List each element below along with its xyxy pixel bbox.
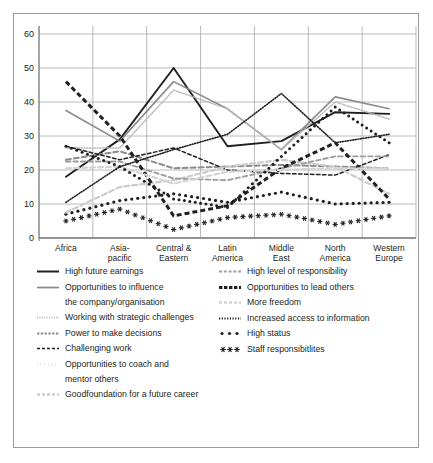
data-point-marker: [255, 178, 258, 181]
legend-item-label: Goodfoundation for a future career: [65, 389, 198, 401]
x-axis-category-label: Latin: [218, 243, 237, 253]
data-point-marker: [208, 198, 211, 201]
star-marker: [202, 220, 207, 225]
data-point-marker: [304, 196, 307, 199]
series-working-with-strategic-challenges: [66, 90, 389, 150]
data-point-marker: [301, 136, 304, 139]
data-point-marker: [172, 197, 175, 200]
data-point-marker: [202, 197, 205, 200]
data-point-marker: [338, 109, 341, 112]
data-point-marker: [142, 196, 145, 199]
star-marker: [171, 227, 176, 232]
star-marker: [240, 214, 245, 219]
star-marker: [163, 224, 168, 229]
legend-line-sample: [219, 282, 241, 293]
data-point-marker: [75, 149, 78, 152]
data-point-marker: [190, 195, 193, 198]
chart-plot-area: 0102030405060AfricaAsia-pacificCentral &…: [14, 14, 420, 264]
star-marker: [271, 212, 276, 217]
data-point-marker: [250, 196, 253, 199]
legend-item[interactable]: Working with strategic challenges: [37, 312, 219, 324]
legend-item[interactable]: Goodfoundation for a future career: [37, 389, 219, 401]
data-point-marker: [267, 167, 270, 170]
data-point-marker: [292, 144, 295, 147]
legend-line-sample: [37, 328, 59, 339]
data-point-marker: [288, 147, 291, 150]
legend-item[interactable]: More freedom: [219, 297, 419, 309]
data-point-marker: [148, 183, 151, 186]
data-point-marker: [221, 205, 224, 208]
y-axis-tick-label: 30: [24, 131, 34, 141]
series-staff-responsibitlites: [63, 207, 391, 232]
data-point-marker: [280, 191, 283, 194]
y-axis-tick-label: 60: [24, 29, 34, 39]
legend-item-label: Opportunities to lead others: [247, 282, 354, 294]
data-point-marker: [346, 202, 349, 205]
legend-item[interactable]: Increased access to information: [219, 313, 419, 325]
data-point-marker: [280, 155, 283, 158]
series-line: [66, 82, 389, 150]
star-marker: [248, 214, 253, 219]
y-axis-tick-label: 10: [24, 199, 34, 209]
legend-swatch-solid-grey-icon: [37, 282, 59, 293]
series-opportunities-to-influence-the-company-organisation: [66, 82, 389, 150]
legend-item[interactable]: Opportunities to influence: [37, 282, 219, 294]
y-axis-tick-label: 40: [24, 97, 34, 107]
x-axis-category-label: Middle: [269, 243, 294, 253]
data-point-marker: [94, 205, 97, 208]
data-point-marker: [88, 207, 91, 210]
x-axis-category-label: pacific: [108, 253, 133, 263]
data-point-marker: [100, 204, 103, 207]
data-point-marker: [305, 132, 308, 135]
data-point-marker: [210, 203, 213, 206]
data-point-marker: [86, 153, 89, 156]
star-marker: [302, 216, 307, 221]
legend-swatch-dash-mid-icon: [219, 266, 241, 277]
star-marker: [186, 224, 191, 229]
legend-item-label-continued: mentor others: [65, 374, 219, 386]
data-point-marker: [220, 200, 223, 203]
legend-line-sample: [219, 297, 241, 308]
data-point-marker: [178, 193, 181, 196]
data-point-marker: [178, 198, 181, 201]
legend-item[interactable]: Challenging work: [37, 343, 219, 355]
x-axis-category-label: East: [273, 253, 291, 263]
star-marker: [317, 219, 322, 224]
legend-item-label: Working with strategic challenges: [65, 312, 194, 324]
legend-item[interactable]: Opportunities to coach and: [37, 359, 219, 371]
legend-item-label-continued: the company/organisation: [65, 297, 219, 309]
star-marker: [117, 207, 122, 212]
x-axis-category-label: Europe: [375, 253, 403, 263]
data-point-marker: [296, 140, 299, 143]
legend-line-sample: [37, 389, 59, 400]
data-point-marker: [226, 206, 229, 209]
star-marker: [210, 219, 215, 224]
data-point-marker: [106, 202, 109, 205]
legend-item[interactable]: Opportunities to lead others: [219, 282, 419, 294]
data-point-marker: [97, 157, 100, 160]
data-point-marker: [262, 194, 265, 197]
data-point-marker: [334, 106, 337, 109]
data-point-marker: [112, 201, 115, 204]
data-point-marker: [70, 211, 73, 214]
chart-legend: High future earningsOpportunities to inf…: [14, 266, 420, 448]
data-point-marker: [136, 197, 139, 200]
data-point-marker: [130, 197, 133, 200]
data-point-marker: [358, 202, 361, 205]
legend-item[interactable]: High future earnings: [37, 266, 219, 278]
legend-item[interactable]: High status: [219, 328, 419, 340]
legend-item[interactable]: Staff responsibitlites: [219, 344, 419, 356]
data-point-marker: [148, 195, 151, 198]
data-point-marker: [379, 135, 382, 138]
x-axis-category-label: Africa: [55, 243, 77, 253]
legend-swatch-dash-black-icon: [37, 343, 59, 354]
data-point-marker: [272, 163, 275, 166]
legend-item[interactable]: Power to make decisions: [37, 328, 219, 340]
legend-item-label: Power to make decisions: [65, 328, 162, 340]
data-point-marker: [325, 113, 328, 116]
star-marker: [225, 215, 230, 220]
star-marker: [356, 219, 361, 224]
legend-item[interactable]: High level of responsibility: [219, 266, 419, 278]
legend-line-sample: [37, 266, 59, 277]
data-point-marker: [370, 201, 373, 204]
